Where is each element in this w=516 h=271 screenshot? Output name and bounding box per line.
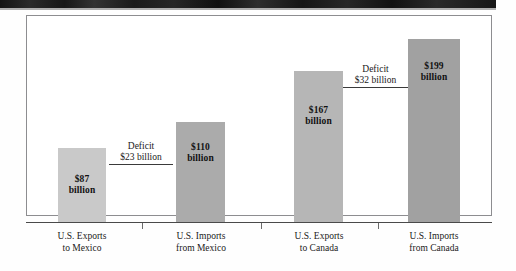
bar-value-unit-4: billion <box>408 72 460 83</box>
axis-label-line1-2: U.S. Imports <box>146 231 256 243</box>
deficit-underline-mexico <box>109 164 173 165</box>
bar-value-unit-1: billion <box>58 185 106 196</box>
bar-us-imports-from-canada[interactable]: $199 billion <box>408 39 460 223</box>
bar-us-exports-to-canada[interactable]: $167 billion <box>294 71 343 223</box>
bar-value-label-4: $199 billion <box>408 61 460 82</box>
deficit-title-mexico: Deficit <box>109 141 173 152</box>
axis-tick-3 <box>378 223 379 229</box>
bar-value-amount-2: $110 <box>176 142 225 153</box>
bar-value-amount-1: $87 <box>58 174 106 185</box>
bar-value-amount-4: $199 <box>408 61 460 72</box>
bar-value-unit-3: billion <box>294 116 343 127</box>
axis-tick-1 <box>142 223 143 229</box>
axis-label-line2-3: to Canada <box>264 243 374 255</box>
axis-label-us-exports-to-canada: U.S. Exports to Canada <box>264 231 374 254</box>
deficit-amount-canada: $32 billion <box>343 75 408 86</box>
axis-label-line1-1: U.S. Exports <box>27 231 137 243</box>
deficit-title-canada: Deficit <box>343 64 408 75</box>
deficit-annotation-mexico: Deficit $23 billion <box>109 141 173 165</box>
axis-label-line2-2: from Mexico <box>146 243 256 255</box>
bar-us-exports-to-mexico[interactable]: $87 billion <box>58 148 106 223</box>
bar-value-amount-3: $167 <box>294 105 343 116</box>
axis-label-line1-4: U.S. Imports <box>379 231 489 243</box>
axis-label-line2-4: from Canada <box>379 243 489 255</box>
bar-value-label-3: $167 billion <box>294 105 343 126</box>
axis-label-us-imports-from-mexico: U.S. Imports from Mexico <box>146 231 256 254</box>
deficit-annotation-canada: Deficit $32 billion <box>343 64 408 88</box>
axis-label-us-imports-from-canada: U.S. Imports from Canada <box>379 231 489 254</box>
bar-us-imports-from-mexico[interactable]: $110 billion <box>176 122 225 223</box>
axis-label-us-exports-to-mexico: U.S. Exports to Mexico <box>27 231 137 254</box>
bars-layer: $87 billion $110 billion $167 billion $1… <box>0 0 516 223</box>
deficit-amount-mexico: $23 billion <box>109 152 173 163</box>
axis-label-line2-1: to Mexico <box>27 243 137 255</box>
chart-baseline-axis <box>26 222 492 223</box>
bar-value-label-2: $110 billion <box>176 142 225 163</box>
bar-value-unit-2: billion <box>176 153 225 164</box>
axis-label-line1-3: U.S. Exports <box>264 231 374 243</box>
bar-value-label-1: $87 billion <box>58 174 106 195</box>
deficit-underline-canada <box>343 87 408 88</box>
axis-tick-2 <box>261 223 262 229</box>
